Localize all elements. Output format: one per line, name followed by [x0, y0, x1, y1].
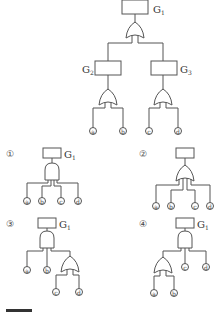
- and-gate-opt3: [40, 231, 54, 248]
- g3-label: G3: [180, 64, 192, 76]
- svg-text:d: d: [204, 264, 208, 271]
- or-gate-top: [126, 22, 144, 38]
- opt4-event-box: [176, 218, 194, 228]
- or-gate-g2: [99, 89, 117, 105]
- opt1-event-box: [43, 148, 61, 158]
- g2-event-box: [95, 61, 121, 75]
- option-1-number: ①: [6, 149, 14, 159]
- or-gate-g3: [154, 89, 172, 105]
- or-gate-opt2: [176, 165, 194, 181]
- opt3-g1-label: G1: [59, 219, 71, 231]
- svg-text:b: b: [169, 203, 173, 210]
- svg-text:a: a: [152, 290, 156, 297]
- fault-tree-diagram: G1 G2 G3 a b c d ① G1 a b: [0, 0, 221, 312]
- and-gate-opt4: [178, 231, 192, 248]
- opt3-event-box: [38, 218, 56, 228]
- and-gate-opt1: [45, 163, 59, 180]
- main-tree: G1 G2 G3 a b c d: [82, 0, 192, 135]
- g3-event-box: [151, 61, 177, 75]
- svg-text:a: a: [25, 267, 29, 274]
- g1-event-box: [122, 0, 148, 14]
- option-3-number: ③: [6, 219, 14, 229]
- option-4[interactable]: ④ G1 c d a b: [139, 218, 210, 297]
- option-3[interactable]: ③ G1 a b c d: [6, 218, 83, 296]
- svg-text:b: b: [40, 198, 44, 205]
- svg-text:a: a: [91, 128, 95, 135]
- g1-label: G1: [153, 4, 165, 16]
- svg-text:b: b: [45, 267, 49, 274]
- svg-text:d: d: [176, 128, 180, 135]
- or-gate-opt4: [154, 257, 172, 273]
- opt4-g1-label: G1: [197, 219, 209, 231]
- svg-text:b: b: [172, 290, 176, 297]
- svg-text:a: a: [154, 203, 158, 210]
- option-1[interactable]: ① G1 a b c d: [6, 148, 82, 205]
- option-4-number: ④: [139, 219, 147, 229]
- svg-text:a: a: [25, 198, 29, 205]
- svg-text:d: d: [208, 203, 212, 210]
- svg-text:d: d: [77, 289, 81, 296]
- option-2[interactable]: ② a b c d: [139, 148, 214, 210]
- g2-label: G2: [82, 64, 94, 76]
- opt1-g1-label: G1: [64, 149, 76, 161]
- svg-text:b: b: [121, 128, 125, 135]
- or-gate-opt3: [61, 256, 79, 272]
- opt2-event-box: [176, 148, 194, 158]
- option-2-number: ②: [139, 149, 147, 159]
- svg-text:d: d: [76, 198, 80, 205]
